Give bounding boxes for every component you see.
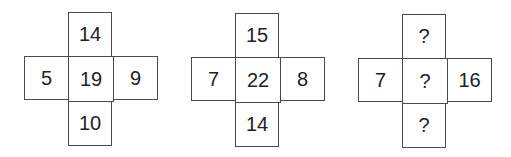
cell-top: 14 (68, 12, 112, 57)
cell-center-unknown: ? (402, 58, 448, 104)
cell-left: 7 (358, 58, 403, 102)
cell-center: 19 (68, 56, 114, 102)
cell-bottom: 10 (68, 101, 112, 146)
cell-top-unknown: ? (402, 14, 446, 59)
cell-right: 9 (113, 56, 158, 100)
cell-left: 7 (191, 57, 236, 101)
puzzle-figure-3: ? 7 ? 16 ? (358, 14, 492, 150)
puzzle-figure-2: 15 7 22 8 14 (191, 13, 325, 149)
puzzle-figure-1: 14 5 19 9 10 (24, 12, 158, 148)
cell-bottom-unknown: ? (402, 103, 446, 148)
cell-bottom: 14 (235, 102, 279, 147)
cell-center: 22 (235, 57, 281, 103)
cell-right: 8 (280, 57, 325, 101)
cell-top: 15 (235, 13, 279, 58)
cell-right: 16 (447, 58, 492, 102)
cell-left: 5 (24, 56, 69, 100)
